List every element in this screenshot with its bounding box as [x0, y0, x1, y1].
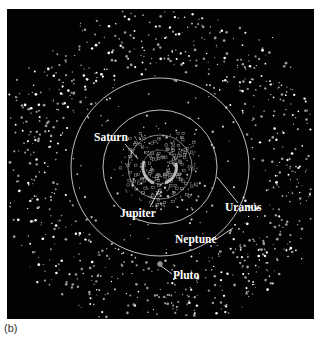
jupiter-orbit	[143, 150, 177, 184]
kuiper-belt-objects	[8, 11, 311, 318]
planet-labels: SaturnJupiterUranusNeptunePluto	[94, 131, 262, 281]
neptune-label: Neptune	[175, 233, 217, 246]
saturn-label: Saturn	[94, 131, 128, 143]
figure-caption: (b)	[4, 322, 17, 334]
asteroid-cluster	[119, 126, 199, 209]
pluto-label: Pluto	[173, 269, 199, 281]
jupiter-label: Jupiter	[120, 207, 156, 220]
orbit-plot: SaturnJupiterUranusNeptunePluto	[7, 9, 314, 319]
neptune-orbit	[71, 78, 249, 256]
uranus-label: Uranus	[225, 201, 262, 213]
solar-system-diagram: SaturnJupiterUranusNeptunePluto	[7, 9, 314, 319]
planet-orbits	[71, 78, 249, 266]
